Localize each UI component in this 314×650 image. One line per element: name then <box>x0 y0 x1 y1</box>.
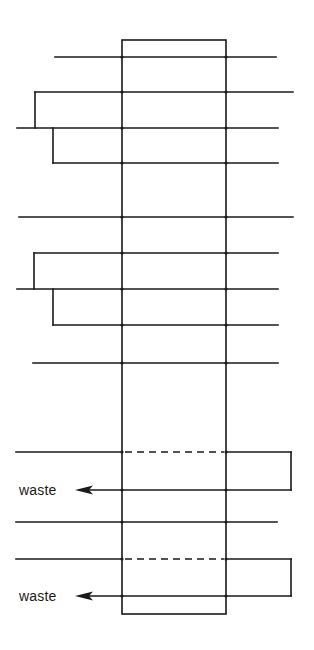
junction-dot <box>120 161 123 164</box>
waste-label: waste <box>19 589 57 603</box>
junction-dot <box>224 594 227 597</box>
junction-dot <box>224 90 227 93</box>
junction-dot <box>224 55 227 58</box>
junction-dot <box>224 361 227 364</box>
junction-dot <box>120 287 123 290</box>
junction-dot <box>224 215 227 218</box>
flow-diagram <box>0 0 314 650</box>
waste-label: waste <box>19 483 57 497</box>
junction-dot <box>224 251 227 254</box>
junction-dot <box>224 287 227 290</box>
junction-dot <box>120 520 123 523</box>
waste-loops <box>16 450 291 600</box>
horizontal-lines <box>16 55 293 523</box>
junction-dot <box>224 557 227 560</box>
branch-connectors <box>34 92 53 325</box>
junction-dot <box>120 557 123 560</box>
junction-dot <box>120 450 123 453</box>
junction-dot <box>120 323 123 326</box>
junction-dot <box>224 323 227 326</box>
junction-dot <box>120 594 123 597</box>
junction-dot <box>120 215 123 218</box>
junction-dot <box>224 450 227 453</box>
junction-dot <box>120 361 123 364</box>
junction-dot <box>224 520 227 523</box>
junction-dot <box>224 161 227 164</box>
central-box-outline <box>122 40 226 614</box>
junction-dot <box>120 55 123 58</box>
central-box <box>122 40 226 614</box>
junction-dot <box>224 488 227 491</box>
junction-dot <box>224 126 227 129</box>
junction-dot <box>120 488 123 491</box>
junction-dot <box>120 251 123 254</box>
junction-dot <box>120 126 123 129</box>
junction-dot <box>120 90 123 93</box>
